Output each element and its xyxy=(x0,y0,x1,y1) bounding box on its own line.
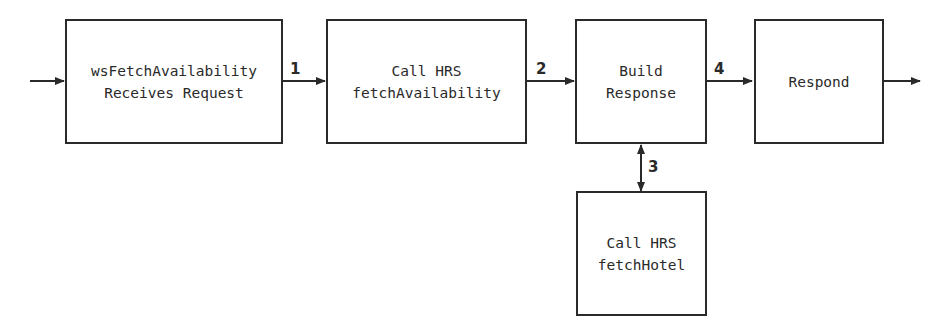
node-receive-request: wsFetchAvailability Receives Request xyxy=(65,19,283,144)
node-text: Call HRS xyxy=(607,232,677,254)
edge-label-4: 4 xyxy=(714,60,724,78)
node-text: Call HRS xyxy=(392,60,462,82)
edge-label-1: 1 xyxy=(290,60,300,78)
edge-label-2: 2 xyxy=(536,60,546,78)
node-call-fetch-availability: Call HRS fetchAvailability xyxy=(326,19,527,144)
node-text: Response xyxy=(606,82,676,104)
node-text: wsFetchAvailability xyxy=(91,60,257,82)
node-text: Build xyxy=(619,60,663,82)
node-text: Receives Request xyxy=(104,82,244,104)
node-build-response: Build Response xyxy=(575,19,707,144)
edge-label-3: 3 xyxy=(648,158,658,176)
node-text: fetchAvailability xyxy=(352,82,500,104)
node-text: fetchHotel xyxy=(598,254,685,276)
node-respond: Respond xyxy=(754,19,884,144)
node-call-fetch-hotel: Call HRS fetchHotel xyxy=(576,191,707,316)
node-text: Respond xyxy=(788,71,849,93)
